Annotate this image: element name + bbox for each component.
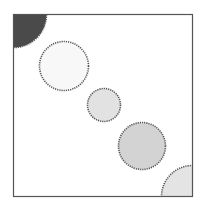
corner-quarter-circle-top-left: [0, 0, 47, 48]
circle-2: [88, 89, 121, 122]
corner-quarter-circle-bottom-right: [162, 166, 202, 210]
diagram-canvas: [0, 0, 201, 209]
circle-3: [119, 123, 166, 170]
shapes-layer: [0, 0, 201, 209]
circle-1: [40, 42, 89, 91]
